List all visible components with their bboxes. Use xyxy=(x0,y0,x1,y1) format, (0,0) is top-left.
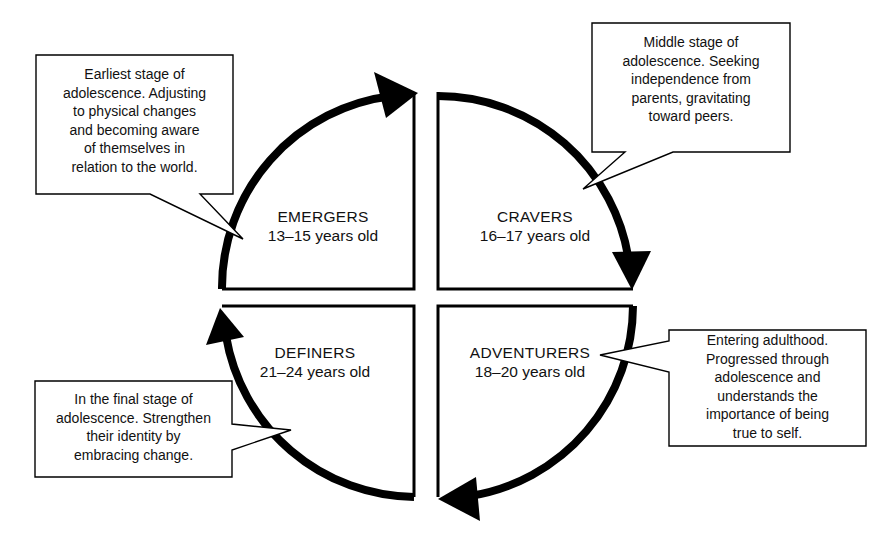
callout-line: importance of being xyxy=(671,405,864,424)
stage-age: 13–15 years old xyxy=(248,226,398,245)
callout-line: embracing change. xyxy=(37,446,230,465)
arrowhead-icon xyxy=(374,72,418,118)
callout-line: and becoming aware xyxy=(38,121,231,140)
cycle-arc-emergers xyxy=(222,96,392,289)
callout-line: Earliest stage of xyxy=(38,65,231,84)
quadrant-adventurers xyxy=(438,306,633,521)
stage-label-adventurers: ADVENTURERS 18–20 years old xyxy=(455,343,605,381)
callout-line: parents, gravitating xyxy=(594,89,788,108)
callout-line: Progressed through xyxy=(671,350,864,369)
callout-definers: In the final stage of adolescence. Stren… xyxy=(37,390,230,464)
callout-line: adolescence and xyxy=(671,368,864,387)
stage-name: EMERGERS xyxy=(248,207,398,226)
callout-line: In the final stage of xyxy=(37,390,230,409)
callout-line: adolescence. Seeking xyxy=(594,52,788,71)
callout-line: Entering adulthood. xyxy=(671,331,864,350)
callout-line: their identity by xyxy=(37,427,230,446)
callout-line: true to self. xyxy=(671,424,864,443)
stage-label-emergers: EMERGERS 13–15 years old xyxy=(248,207,398,245)
callout-line: relation to the world. xyxy=(38,158,231,177)
callout-line: adolescence. Adjusting xyxy=(38,84,231,103)
callout-line: independence from xyxy=(594,70,788,89)
callout-emergers: Earliest stage of adolescence. Adjusting… xyxy=(38,65,231,176)
stage-age: 21–24 years old xyxy=(240,362,390,381)
arrowhead-icon xyxy=(438,477,480,521)
callout-line: Middle stage of xyxy=(594,33,788,52)
stage-age: 18–20 years old xyxy=(455,362,605,381)
arrowhead-icon xyxy=(206,308,244,345)
callout-line: of themselves in xyxy=(38,139,231,158)
stage-name: ADVENTURERS xyxy=(455,343,605,362)
arrowhead-icon xyxy=(612,251,651,290)
cycle-arc-adventurers xyxy=(470,306,633,496)
stage-label-cravers: CRAVERS 16–17 years old xyxy=(460,207,610,245)
quadrant-emergers xyxy=(222,72,418,289)
callout-cravers: Middle stage of adolescence. Seeking ind… xyxy=(594,33,788,126)
stage-age: 16–17 years old xyxy=(460,226,610,245)
callout-line: understands the xyxy=(671,387,864,406)
callout-line: adolescence. Strengthen xyxy=(37,409,230,428)
callout-line: toward peers. xyxy=(594,107,788,126)
callout-adventurers: Entering adulthood. Progressed through a… xyxy=(671,331,864,442)
stage-name: DEFINERS xyxy=(240,343,390,362)
stage-label-definers: DEFINERS 21–24 years old xyxy=(240,343,390,381)
quadrant-definers xyxy=(206,306,414,497)
callout-line: to physical changes xyxy=(38,102,231,121)
stage-name: CRAVERS xyxy=(460,207,610,226)
